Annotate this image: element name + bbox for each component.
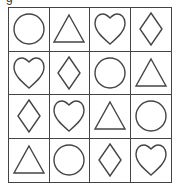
heart-icon bbox=[133, 141, 169, 179]
heart-icon bbox=[51, 97, 87, 135]
diamond-icon bbox=[11, 97, 47, 135]
grid-cell bbox=[131, 8, 172, 52]
circle-icon bbox=[133, 97, 169, 135]
grid-cell bbox=[90, 8, 131, 52]
grid-cell bbox=[131, 139, 172, 183]
grid-cell bbox=[131, 52, 172, 96]
grid-cell bbox=[50, 52, 91, 96]
grid-cell bbox=[50, 95, 91, 139]
grid-cell bbox=[9, 8, 50, 52]
circle-icon bbox=[51, 141, 87, 179]
triangle-icon bbox=[92, 97, 128, 135]
grid-cell bbox=[131, 95, 172, 139]
shape-grid bbox=[8, 7, 172, 183]
grid-cell bbox=[9, 52, 50, 96]
heart-icon bbox=[11, 54, 47, 92]
cut-off-label: g bbox=[6, 0, 13, 5]
grid-cell bbox=[50, 8, 91, 52]
heart-icon bbox=[92, 10, 128, 48]
triangle-icon bbox=[11, 141, 47, 179]
grid-cell bbox=[90, 95, 131, 139]
circle-icon bbox=[11, 10, 47, 48]
grid-cell bbox=[90, 139, 131, 183]
circle-icon bbox=[92, 54, 128, 92]
grid-cell bbox=[9, 139, 50, 183]
diamond-icon bbox=[51, 54, 87, 92]
grid-cell bbox=[50, 139, 91, 183]
grid-cell bbox=[9, 95, 50, 139]
diamond-icon bbox=[133, 10, 169, 48]
diamond-icon bbox=[92, 141, 128, 179]
triangle-icon bbox=[51, 10, 87, 48]
grid-cell bbox=[90, 52, 131, 96]
triangle-icon bbox=[133, 54, 169, 92]
